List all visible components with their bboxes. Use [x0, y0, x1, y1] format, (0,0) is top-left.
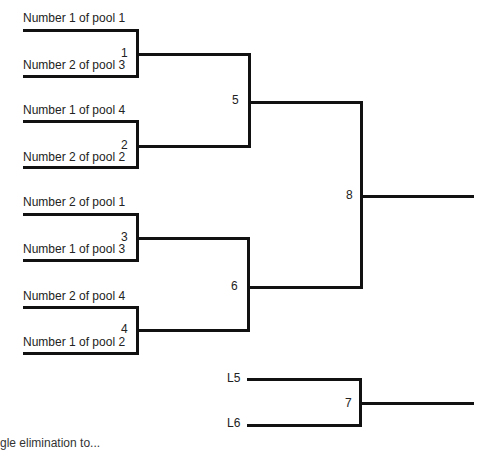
- bracket-line: [23, 75, 139, 78]
- seed-label: Number 2 of pool 1: [23, 195, 125, 209]
- bracket-line: [23, 213, 139, 216]
- match-number: 7: [345, 396, 352, 410]
- seed-label: Number 2 of pool 4: [23, 289, 125, 303]
- bracket-line: [23, 352, 139, 355]
- bracket-line: [23, 259, 139, 262]
- bracket-line: [136, 53, 250, 56]
- seed-label: Number 1 of pool 2: [23, 335, 125, 349]
- bracket-line: [136, 237, 250, 240]
- bracket-line: [136, 329, 250, 332]
- bracket-line: [247, 378, 362, 381]
- bracket-line: [247, 286, 363, 289]
- bracket-line: [360, 195, 474, 198]
- match-number: 4: [121, 322, 128, 336]
- bracket-line: [23, 306, 139, 309]
- match-number: 8: [346, 188, 353, 202]
- bracket-line: [248, 101, 363, 104]
- bracket-line: [247, 424, 362, 427]
- loser-label: L5: [227, 371, 240, 385]
- match-number: 6: [231, 279, 238, 293]
- match-number: 5: [232, 93, 239, 107]
- seed-label: Number 1 of pool 4: [23, 103, 125, 117]
- bracket-line: [23, 120, 139, 123]
- bracket-line: [247, 237, 250, 332]
- bracket-line: [136, 145, 250, 148]
- seed-label: Number 1 of pool 3: [23, 242, 125, 256]
- figure-caption: gle elimination to...: [0, 436, 100, 450]
- seed-label: Number 2 of pool 2: [23, 150, 125, 164]
- seed-label: Number 1 of pool 1: [23, 11, 125, 25]
- seed-label: Number 2 of pool 3: [23, 58, 125, 72]
- bracket-line: [23, 29, 139, 32]
- bracket-line: [23, 166, 139, 169]
- loser-label: L6: [227, 416, 240, 430]
- bracket-line: [359, 402, 474, 405]
